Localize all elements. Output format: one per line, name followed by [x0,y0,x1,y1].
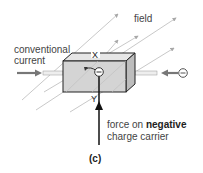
right-lead [135,71,157,75]
electron-flow-arrow [161,70,178,77]
force-label-line1: force on negative [107,119,187,130]
conventional-current-label-line2: current [14,55,45,66]
y-axis-label: Y [91,94,97,105]
force-label-line2: charge carrier [107,131,169,142]
block-front-face [63,61,126,92]
force-label-bold: negative [146,119,187,130]
force-label-prefix: force on [107,119,146,130]
conventional-current-arrow [17,70,42,77]
x-axis-label: X [92,50,98,61]
panel-label: (c) [89,153,101,164]
left-lead [43,71,63,75]
hall-effect-diagram [0,0,203,173]
field-label: field [134,13,152,24]
conventional-current-label-line1: conventional [14,44,70,55]
